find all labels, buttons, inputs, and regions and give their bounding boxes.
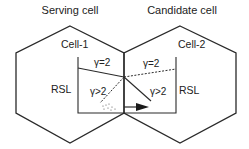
right-dotted-boundary — [124, 69, 176, 77]
right-gamma-greater-label: γ>2 — [150, 86, 167, 97]
left-gamma-equal-label: γ=2 — [94, 57, 111, 68]
left-gamma-greater-label: γ>2 — [90, 86, 107, 97]
left-rsl-label: RSL — [51, 83, 72, 95]
candidate-cell-title: Candidate cell — [147, 4, 217, 16]
left-solid-boundary — [78, 68, 124, 77]
right-gamma-equal-label: γ=2 — [143, 58, 160, 69]
handover-cell-diagram: Serving cell Candidate cell Cell-1 Cell-… — [0, 0, 249, 149]
right-solid-boundary — [124, 77, 151, 101]
cell2-label: Cell-2 — [178, 38, 206, 50]
cell1-label: Cell-1 — [61, 38, 89, 50]
scatter-marks — [102, 103, 115, 110]
right-rsl-label: RSL — [179, 84, 200, 96]
handover-arrow-head — [136, 103, 149, 111]
serving-cell-title: Serving cell — [42, 4, 99, 16]
